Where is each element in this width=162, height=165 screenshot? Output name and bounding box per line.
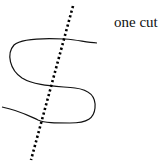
one-cut-label: one cut [114,14,158,31]
s-curve [2,39,97,123]
cut-line [31,6,73,160]
